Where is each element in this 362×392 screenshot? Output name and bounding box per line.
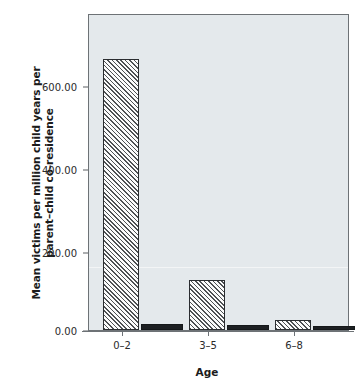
plot-area: [88, 14, 349, 331]
bar-solid-3-5: [227, 325, 269, 330]
y-tick-label-200: 200.00: [17, 248, 77, 259]
x-tick-label-3-5: 3–5: [178, 340, 238, 351]
x-tick-mark-3-5: [208, 331, 209, 336]
plot-inner: [89, 15, 348, 330]
x-tick-label-0-2: 0–2: [92, 340, 152, 351]
x-tick-mark-0-2: [122, 331, 123, 336]
x-tick-label-6-8: 6–8: [264, 340, 324, 351]
y-tick-label-400: 400.00: [17, 165, 77, 176]
x-tick-mark-6-8: [294, 331, 295, 336]
chart-figure: Mean victims per million child years per…: [0, 0, 362, 392]
bar-hatched-3-5: [189, 280, 225, 330]
y-tick-label-0: 0.00: [17, 326, 77, 337]
y-axis-title-text: Mean victims per million child years per…: [30, 66, 57, 299]
x-axis-title: Age: [0, 366, 362, 378]
y-axis-title: Mean victims per million child years per…: [26, 23, 60, 343]
bar-hatched-6-8: [275, 320, 311, 330]
y-tick-label-600: 600.00: [17, 82, 77, 93]
bar-hatched-0-2: [103, 59, 139, 330]
bar-solid-0-2: [141, 324, 183, 330]
bar-solid-6-8: [313, 326, 355, 330]
